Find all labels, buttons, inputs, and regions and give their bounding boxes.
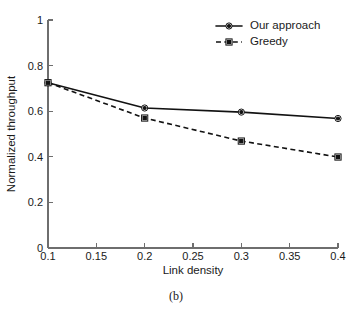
data-point-marker: [240, 139, 243, 142]
figure-container: 00.20.40.60.81 0.10.150.20.250.30.350.4 …: [0, 0, 352, 316]
legend-marker: [228, 25, 231, 28]
legend-label: Greedy: [250, 35, 288, 47]
line-chart: 00.20.40.60.81 0.10.150.20.250.30.350.4 …: [0, 0, 352, 316]
y-tick-label: 0.6: [28, 105, 43, 117]
x-tick-label: 0.35: [279, 250, 300, 262]
x-tick-label: 0.2: [137, 250, 152, 262]
data-point-marker: [240, 111, 243, 114]
y-axis-title: Normalized throughput: [5, 75, 17, 192]
data-point-marker: [337, 117, 340, 120]
y-tick-label: 0.4: [28, 151, 43, 163]
x-tick-label: 0.1: [40, 250, 55, 262]
series-1: [45, 80, 341, 122]
x-axis-ticks: 0.10.150.20.250.30.350.4: [40, 243, 345, 262]
y-tick-label: 1: [37, 14, 43, 26]
data-point-marker: [46, 81, 49, 84]
legend-marker: [227, 40, 230, 43]
chart-legend: Our approachGreedy: [216, 19, 320, 47]
y-tick-label: 0.2: [28, 196, 43, 208]
x-axis-title: Link density: [163, 264, 224, 276]
data-point-marker: [143, 107, 146, 110]
data-series-group: [45, 80, 341, 161]
y-tick-label: 0.8: [28, 60, 43, 72]
legend-item-2: Greedy: [216, 35, 288, 47]
legend-label: Our approach: [250, 19, 320, 31]
x-tick-label: 0.3: [234, 250, 249, 262]
series-line-1: [48, 83, 338, 119]
x-tick-label: 0.15: [86, 250, 107, 262]
x-tick-label: 0.4: [330, 250, 345, 262]
legend-item-1: Our approach: [216, 19, 320, 31]
x-tick-label: 0.25: [182, 250, 203, 262]
series-2: [45, 80, 341, 161]
axes-group: [48, 20, 338, 248]
data-point-marker: [143, 116, 146, 119]
data-point-marker: [336, 155, 339, 158]
y-axis-ticks: 00.20.40.60.81: [28, 14, 53, 254]
figure-caption: (b): [169, 289, 183, 303]
